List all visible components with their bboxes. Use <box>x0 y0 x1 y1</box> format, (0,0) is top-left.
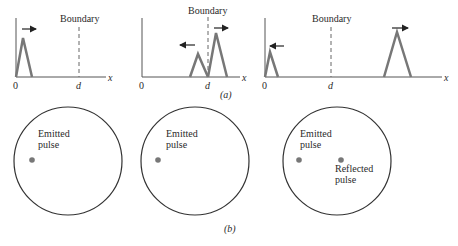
x-axis-label: x <box>443 72 449 83</box>
panel-b2: Emitted pulse (b) <box>141 107 249 235</box>
emitted-pulse-dot <box>296 157 302 163</box>
boundary-position-label: d <box>328 80 334 91</box>
pulse-reflection-diagram: x 0 Boundary d x 0 Boundary d (a) x 0 Bo… <box>0 0 458 246</box>
panel-b1: Emitted pulse <box>14 107 122 215</box>
panel-a3: x 0 Boundary d <box>262 13 449 91</box>
pulse-transmitted <box>384 32 411 77</box>
pulse-reflected <box>190 54 208 77</box>
caption-b: (b) <box>224 223 236 235</box>
boundary-label: Boundary <box>60 13 99 24</box>
boundary-label: Boundary <box>188 5 227 16</box>
pulse-incident <box>16 38 32 77</box>
x-axis-label: x <box>241 72 247 83</box>
pulse-transmitted <box>208 33 227 77</box>
boundary-position-label: d <box>76 80 82 91</box>
origin-label: 0 <box>13 80 18 91</box>
origin-label: 0 <box>139 80 144 91</box>
emitted-pulse-dot <box>29 157 35 163</box>
emitted-label: Emitted pulse <box>166 128 200 150</box>
panel-a2: x 0 Boundary d (a) <box>139 5 247 101</box>
x-axis-label: x <box>107 72 113 83</box>
caption-a: (a) <box>220 89 232 101</box>
emitted-label: Emitted pulse <box>38 128 72 150</box>
boundary-position-label: d <box>205 80 211 91</box>
reflected-label: Reflected pulse <box>335 163 376 185</box>
emitted-label: Emitted pulse <box>300 128 334 150</box>
panel-a1: x 0 Boundary d <box>13 13 113 91</box>
boundary-label: Boundary <box>312 13 351 24</box>
pulse-reflected <box>265 52 278 77</box>
reflected-pulse-dot <box>338 157 344 163</box>
panel-b3: Emitted pulse Reflected pulse <box>283 107 391 215</box>
origin-label: 0 <box>262 80 267 91</box>
emitted-pulse-dot <box>155 157 161 163</box>
